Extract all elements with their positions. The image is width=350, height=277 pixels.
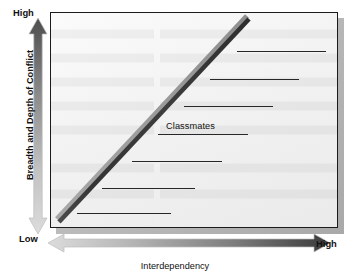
plot-area: Classmates	[50, 12, 338, 228]
relationship-line-6	[102, 188, 195, 189]
x-axis-arrow	[48, 234, 330, 252]
y-axis-high-label: High	[13, 7, 34, 18]
page-bleedthrough-texture	[51, 13, 337, 227]
relationship-line-7	[77, 213, 171, 214]
relationship-line-3	[184, 106, 273, 107]
x-axis-high-label: High	[316, 238, 337, 249]
figure-canvas: Classmates	[0, 0, 350, 277]
x-axis-title: Interdependency	[0, 261, 350, 271]
relationship-line-2	[210, 79, 299, 80]
relationship-line-5	[132, 161, 222, 162]
relationship-line-1	[237, 51, 326, 52]
y-axis-low-label: Low	[19, 233, 38, 244]
relationship-line-4	[158, 134, 248, 135]
classmates-label: Classmates	[166, 121, 215, 131]
y-axis-title: Breadth and Depth of Conflict	[25, 25, 35, 205]
